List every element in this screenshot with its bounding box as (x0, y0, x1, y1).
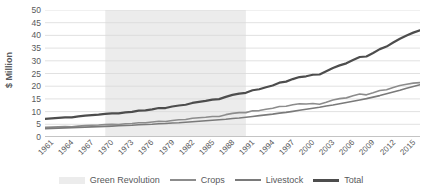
x-tick-label: 2012 (378, 138, 397, 157)
x-tick-label: 1994 (257, 138, 276, 157)
line-chart-svg (45, 10, 420, 137)
legend-swatch-line-icon (235, 179, 261, 181)
legend-swatch-line-icon (170, 179, 196, 181)
y-tick-label: 45 (32, 18, 41, 27)
legend-item-green-revolution[interactable]: Green Revolution (59, 175, 160, 185)
legend-label: Green Revolution (90, 175, 160, 185)
chart-legend: Green RevolutionCropsLivestockTotal (0, 170, 422, 190)
x-tick-label: 1991 (237, 138, 256, 157)
y-tick-label: 40 (32, 31, 41, 40)
x-tick-label: 1967 (77, 138, 96, 157)
y-tick-label: 15 (32, 95, 41, 104)
x-tick-label: 2006 (338, 138, 357, 157)
x-tick-label: 2015 (398, 138, 417, 157)
plot-area (45, 10, 420, 137)
y-axis-title-text: $ Million (4, 52, 14, 88)
y-tick-label: 25 (32, 69, 41, 78)
y-tick-label: 20 (32, 82, 41, 91)
x-tick-label: 1997 (277, 138, 296, 157)
x-axis-tick-labels: 1961196419671970197319761979198219851988… (45, 138, 420, 164)
x-tick-label: 1988 (217, 138, 236, 157)
y-tick-label: 0 (36, 133, 41, 142)
x-tick-label: 1985 (197, 138, 216, 157)
y-tick-label: 35 (32, 44, 41, 53)
legend-item-crops[interactable]: Crops (170, 175, 225, 185)
y-tick-label: 10 (32, 107, 41, 116)
legend-label: Total (344, 175, 363, 185)
x-tick-label: 1973 (117, 138, 136, 157)
x-tick-label: 1982 (177, 138, 196, 157)
legend-item-livestock[interactable]: Livestock (235, 175, 304, 185)
x-tick-label: 2003 (318, 138, 337, 157)
y-axis-tick-labels: 05101520253035404550 (18, 10, 44, 137)
y-tick-label: 30 (32, 57, 41, 66)
legend-label: Crops (201, 175, 225, 185)
chart-container: $ Million 05101520253035404550 196119641… (0, 0, 422, 195)
x-tick-label: 2009 (358, 138, 377, 157)
y-axis-title: $ Million (0, 0, 18, 140)
x-tick-label: 1970 (97, 138, 116, 157)
x-tick-label: 1979 (157, 138, 176, 157)
legend-item-total[interactable]: Total (313, 175, 363, 185)
y-tick-label: 50 (32, 6, 41, 15)
legend-label: Livestock (266, 175, 304, 185)
legend-swatch-line-icon (313, 179, 339, 182)
x-tick-label: 2000 (298, 138, 317, 157)
x-tick-label: 1964 (56, 138, 75, 157)
x-tick-label: 1976 (137, 138, 156, 157)
legend-swatch-band-icon (59, 177, 85, 184)
y-tick-label: 5 (36, 120, 41, 129)
